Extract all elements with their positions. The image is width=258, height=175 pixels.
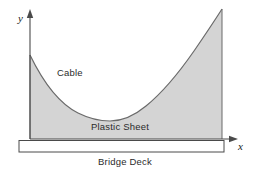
bridge-deck-label: Bridge Deck — [98, 157, 152, 167]
plastic-sheet-label: Plastic Sheet — [91, 122, 149, 132]
x-axis-label: x — [238, 141, 243, 152]
figure-canvas — [0, 0, 258, 175]
bridge-cable-figure: y x Cable Plastic Sheet Bridge Deck — [0, 0, 258, 175]
y-axis-arrowhead — [27, 9, 33, 18]
x-axis-arrowhead — [229, 136, 238, 142]
y-axis-label: y — [18, 13, 23, 24]
cable-label: Cable — [57, 68, 83, 78]
bridge-deck-bar — [19, 141, 224, 153]
